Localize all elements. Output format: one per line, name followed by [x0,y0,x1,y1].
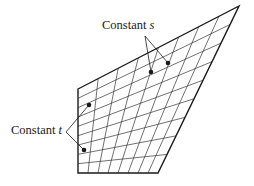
constant-s-point [149,70,154,75]
constant-t-point [82,148,87,153]
constant-t-text: Constant [11,123,59,137]
constant-t-label: Constant t [11,124,62,137]
constant-s-point [166,61,171,66]
leader-lines [66,36,168,150]
constant-s-label: Constant s [102,19,154,32]
constant-t-grid-line [78,25,230,99]
constant-t-point [87,103,92,108]
s-variable: s [150,18,155,32]
constant-t-grid-line [78,62,212,117]
constant-s-grid-line [148,16,219,173]
grid-lines [78,16,230,173]
constant-t-grid-line [78,117,185,145]
constant-s-text: Constant [102,18,150,32]
constant-t-grid-line [78,136,176,154]
t-variable: t [59,123,62,137]
constant-s-grid-line [118,48,159,174]
constant-t-grid-line [78,154,167,163]
constant-s-grid-line [108,58,138,173]
